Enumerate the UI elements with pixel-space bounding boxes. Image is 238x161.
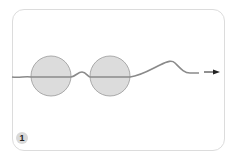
bead-left — [31, 56, 71, 96]
step-number-badge: 1 — [16, 132, 28, 144]
bead-right — [90, 56, 130, 96]
direction-arrow — [204, 70, 220, 75]
strand-diagram — [0, 0, 238, 161]
